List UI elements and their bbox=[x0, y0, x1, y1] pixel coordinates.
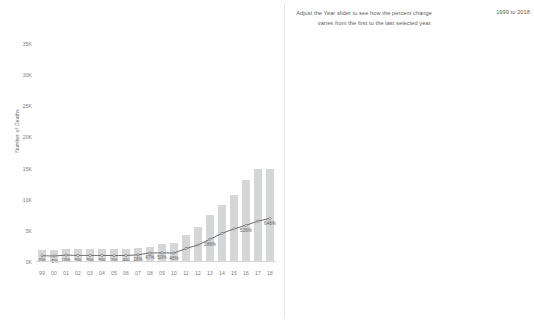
bar-slot[interactable] bbox=[216, 44, 228, 262]
bar-slot[interactable] bbox=[60, 44, 72, 262]
percent-change-label: 50% bbox=[157, 255, 166, 260]
bar-slot[interactable] bbox=[168, 44, 180, 262]
x-tick-label: 00 bbox=[48, 270, 60, 276]
bar[interactable] bbox=[206, 215, 215, 262]
bar-slot[interactable] bbox=[252, 44, 264, 262]
bar-slot[interactable] bbox=[108, 44, 120, 262]
bar-slot[interactable] bbox=[156, 44, 168, 262]
bar[interactable] bbox=[230, 195, 239, 262]
bar[interactable] bbox=[218, 205, 227, 262]
y-tick-label: 35K bbox=[23, 41, 32, 47]
x-tick-label: 05 bbox=[108, 270, 120, 276]
x-tick-label: 17 bbox=[252, 270, 264, 276]
bar-slot[interactable] bbox=[72, 44, 84, 262]
y-tick-label: 5K bbox=[26, 228, 32, 234]
x-tick-label: 09 bbox=[156, 270, 168, 276]
bar[interactable] bbox=[242, 180, 251, 262]
x-tick-label: 15 bbox=[228, 270, 240, 276]
x-tick-label: 03 bbox=[84, 270, 96, 276]
bar-slot[interactable] bbox=[36, 44, 48, 262]
dashboard-root: Number of Deaths 0K5K10K15K20K25K30K35K … bbox=[0, 0, 534, 322]
x-tick-label: 12 bbox=[192, 270, 204, 276]
right-panel: Adjust the Year slider to see how the pe… bbox=[284, 0, 534, 322]
percent-change-label: 646% bbox=[264, 221, 276, 226]
bar[interactable] bbox=[182, 235, 191, 262]
percent-change-label: 526% bbox=[240, 228, 252, 233]
x-tick-label: 18 bbox=[264, 270, 276, 276]
y-tick-label: 25K bbox=[23, 103, 32, 109]
x-tick-label: 99 bbox=[36, 270, 48, 276]
right-header: Adjust the Year slider to see how the pe… bbox=[286, 8, 530, 29]
x-tick-label: 07 bbox=[132, 270, 144, 276]
bar-slot[interactable] bbox=[264, 44, 276, 262]
bar-slot[interactable] bbox=[180, 44, 192, 262]
bar-slot[interactable] bbox=[96, 44, 108, 262]
bar-slot[interactable] bbox=[228, 44, 240, 262]
percent-change-label: 47% bbox=[145, 255, 154, 260]
x-tick-label: 04 bbox=[96, 270, 108, 276]
y-tick-label: 0K bbox=[26, 259, 32, 265]
x-tick-label: 16 bbox=[240, 270, 252, 276]
y-tick-label: 30K bbox=[23, 72, 32, 78]
instruction-text: Adjust the Year slider to see how the pe… bbox=[286, 8, 432, 29]
x-tick-label: 13 bbox=[204, 270, 216, 276]
left-y-axis-title: Number of Deaths bbox=[14, 109, 20, 153]
y-tick-label: 20K bbox=[23, 134, 32, 140]
left-panel: Number of Deaths 0K5K10K15K20K25K30K35K … bbox=[0, 0, 284, 322]
y-tick-label: 15K bbox=[23, 166, 32, 172]
x-tick-label: 11 bbox=[180, 270, 192, 276]
x-tick-label: 06 bbox=[120, 270, 132, 276]
bar-slot[interactable] bbox=[132, 44, 144, 262]
bar-slot[interactable] bbox=[84, 44, 96, 262]
bar-slot[interactable] bbox=[144, 44, 156, 262]
left-x-axis-ticks: 9900010203040506070809101112131415161718 bbox=[36, 270, 276, 276]
bar-slot[interactable] bbox=[192, 44, 204, 262]
x-tick-label: 08 bbox=[144, 270, 156, 276]
x-tick-label: 10 bbox=[168, 270, 180, 276]
year-range-label: 1999 to 2018 bbox=[496, 8, 530, 15]
bar[interactable] bbox=[266, 169, 275, 262]
left-plot-area: 0%-5%10%5%5%5%2%4%16%47%50%46%286%526%64… bbox=[36, 44, 276, 262]
x-tick-label: 01 bbox=[60, 270, 72, 276]
bar-slot[interactable] bbox=[204, 44, 216, 262]
bar[interactable] bbox=[254, 169, 263, 262]
x-tick-label: 02 bbox=[72, 270, 84, 276]
x-tick-label: 14 bbox=[216, 270, 228, 276]
bar[interactable] bbox=[194, 227, 203, 263]
left-baseline bbox=[36, 261, 276, 262]
bar-slot[interactable] bbox=[48, 44, 60, 262]
percent-change-label: 286% bbox=[204, 242, 216, 247]
percent-change-label: 46% bbox=[169, 256, 178, 261]
left-chart: Number of Deaths 0K5K10K15K20K25K30K35K … bbox=[14, 44, 276, 292]
y-tick-label: 10K bbox=[23, 197, 32, 203]
bar-slot[interactable] bbox=[120, 44, 132, 262]
